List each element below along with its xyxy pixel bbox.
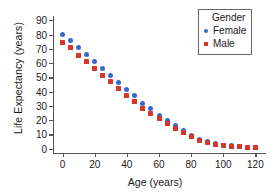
y-tick-label: 30 [36,100,47,111]
y-tick-mark [49,49,53,50]
data-point-male [181,130,186,135]
y-tick-mark [49,92,53,93]
x-tick-mark [255,153,256,157]
legend-label: Female [213,25,246,37]
y-tick-mark [49,120,53,121]
legend-item-male[interactable]: Male [204,38,246,50]
data-point-male [197,138,202,143]
y-tick-label: 90 [36,15,47,26]
scatter-chart: Life Expectancy (years) 0102030405060708… [0,0,275,196]
data-point-male [229,144,234,149]
data-point-male [132,99,137,104]
y-tick-label: 50 [36,72,47,83]
y-tick-mark [49,35,53,36]
data-point-male [245,145,250,150]
data-point-male [165,121,170,126]
data-point-male [60,40,65,45]
y-tick-label: 0 [41,143,47,154]
y-tick-mark [49,149,53,150]
x-tick-mark [127,153,128,157]
data-point-male [213,142,218,147]
data-point-female [92,59,97,64]
y-tick-label: 10 [36,129,47,140]
y-tick-mark [49,106,53,107]
data-point-male [76,53,81,58]
y-tick-label: 40 [36,86,47,97]
y-tick-mark [49,77,53,78]
x-tick-label: 80 [186,159,197,170]
x-tick-label: 60 [153,159,164,170]
y-tick-label: 80 [36,29,47,40]
legend-title: Gender [204,12,246,24]
x-tick-label: 20 [89,159,100,170]
circle-marker-icon [204,29,208,33]
data-point-male [189,134,194,139]
data-point-female [100,66,105,71]
data-point-male [84,59,89,64]
data-point-male [140,106,145,111]
y-tick-mark [49,134,53,135]
data-point-female [60,32,65,37]
data-point-male [124,93,129,98]
x-tick-mark [223,153,224,157]
legend: Gender FemaleMale [198,9,252,55]
data-point-male [100,73,105,78]
data-point-male [173,126,178,131]
data-point-male [148,111,153,116]
data-point-male [108,79,113,84]
data-point-female [140,101,145,106]
data-point-male [237,144,242,149]
x-tick-label: 0 [60,159,66,170]
data-point-female [116,80,121,85]
data-point-male [253,145,258,150]
y-tick-label: 70 [36,43,47,54]
data-point-female [132,93,137,98]
data-point-female [76,45,81,50]
data-point-male [92,66,97,71]
x-axis-title: Age (years) [40,176,270,188]
y-tick-label: 20 [36,115,47,126]
data-point-male [157,116,162,121]
x-tick-label: 120 [247,159,264,170]
data-point-female [84,52,89,57]
x-tick-mark [63,153,64,157]
data-point-male [68,45,73,50]
x-tick-mark [159,153,160,157]
y-tick-mark [49,20,53,21]
data-point-male [221,143,226,148]
legend-label: Male [213,38,235,50]
y-axis-title: Life Expectancy (years) [12,8,24,148]
y-tick-label: 60 [36,58,47,69]
x-tick-label: 100 [215,159,232,170]
x-tick-mark [95,153,96,157]
square-marker-icon [204,42,208,46]
data-point-male [116,86,121,91]
data-point-female [124,87,129,92]
x-tick-mark [191,153,192,157]
data-point-female [108,73,113,78]
y-tick-mark [49,63,53,64]
legend-item-female[interactable]: Female [204,25,246,37]
data-point-male [205,140,210,145]
x-tick-label: 40 [121,159,132,170]
legend-entries: FemaleMale [204,25,246,50]
data-point-female [68,38,73,43]
